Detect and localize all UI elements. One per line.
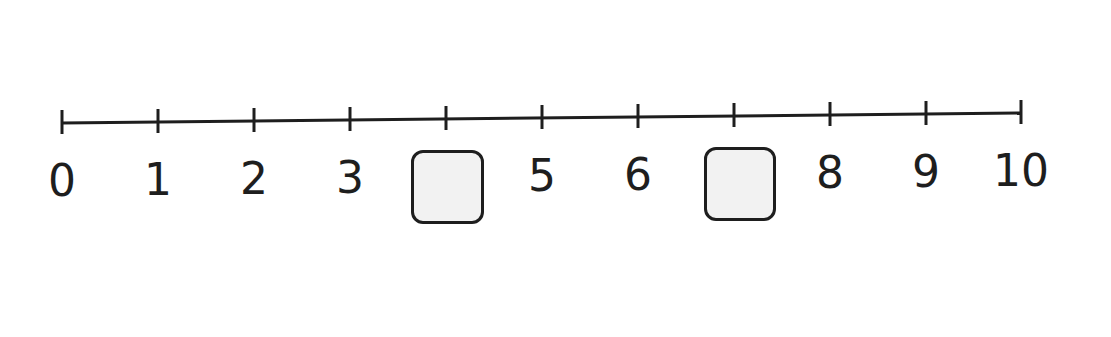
tick-label: 2	[240, 157, 268, 201]
answer-box-7[interactable]	[704, 147, 776, 221]
tick-label: 9	[912, 150, 940, 194]
tick-label: 3	[336, 156, 364, 200]
tick-label: 5	[528, 154, 556, 198]
tick-label: 0	[48, 159, 76, 203]
tick-label: 6	[624, 153, 652, 197]
tick-label: 8	[816, 151, 844, 195]
tick-label: 1	[144, 158, 172, 202]
tick-label: 10	[993, 149, 1049, 193]
number-line-diagram: 0123568910	[0, 0, 1111, 337]
answer-box-4[interactable]	[411, 150, 484, 224]
